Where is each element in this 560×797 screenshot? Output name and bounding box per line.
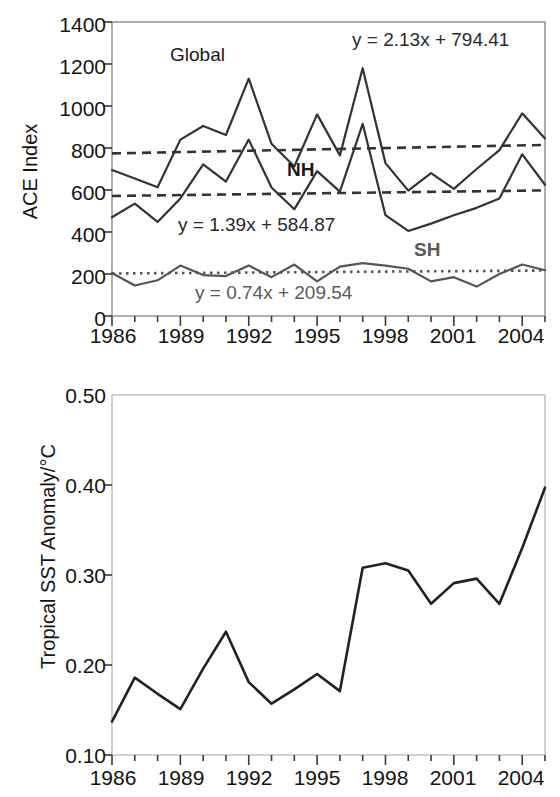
sst-ytick-010: 0.10 [18,745,106,766]
sst-data-lines [112,488,545,722]
tropical-sst-panel: Tropical SST Anomaly/°C 0.10 0.20 0.30 0… [0,355,560,797]
ace-xtick-1995: 1995 [282,325,352,346]
ace-xtick-1992: 1992 [214,325,284,346]
series-line-tropical-sst-anomaly [112,488,545,722]
ace-xtick-1989: 1989 [146,325,216,346]
sst-ytick-020: 0.20 [18,655,106,676]
sst-ytick-050: 0.50 [18,385,106,406]
figure-container: ACE Index 0 200 400 600 800 1000 1200 14… [0,0,560,797]
ace-trend-lines [112,145,545,274]
ace-xtick-2001: 2001 [418,325,488,346]
ace-series-label-sh: SH [414,240,440,259]
ace-ytick-1200: 1200 [20,56,106,77]
ace-ytick-200: 200 [20,266,106,287]
sst-xtick-1992: 1992 [214,767,284,788]
sst-xtick-1998: 1998 [350,767,420,788]
sst-ytick-040: 0.40 [18,475,106,496]
ace-ytick-400: 400 [20,224,106,245]
ace-xtick-2004: 2004 [486,325,556,346]
ace-trend-equation-nh: y = 1.39x + 584.87 [178,215,335,234]
sst-xtick-2001: 2001 [418,767,488,788]
ace-series-label-global: Global [170,45,225,64]
ace-y-axis-label: ACE Index [19,102,42,242]
ace-xtick-1998: 1998 [350,325,420,346]
sst-xtick-1995: 1995 [282,767,352,788]
ace-ytick-1000: 1000 [20,98,106,119]
sst-xtick-1986: 1986 [78,767,148,788]
ace-ytick-1400: 1400 [20,14,106,35]
sst-xtick-1989: 1989 [146,767,216,788]
sst-xtick-2004: 2004 [486,767,556,788]
series-line-global [112,68,545,190]
sst-plot-frame [112,395,545,755]
sst-axis-ticks [104,485,545,765]
sst-ytick-030: 0.30 [18,565,106,586]
ace-xtick-1986: 1986 [78,325,148,346]
ace-series-label-nh: NH [287,160,314,179]
ace-trend-equation-sh: y = 0.74x + 209.54 [195,283,352,302]
ace-ytick-800: 800 [20,140,106,161]
ace-ytick-600: 600 [20,182,106,203]
ace-data-lines [112,68,545,286]
ace-trend-equation-global: y = 2.13x + 794.41 [352,30,509,49]
ace-axis-ticks [104,22,545,326]
trend-line-nh [112,190,545,196]
ace-index-panel: ACE Index 0 200 400 600 800 1000 1200 14… [0,0,560,355]
